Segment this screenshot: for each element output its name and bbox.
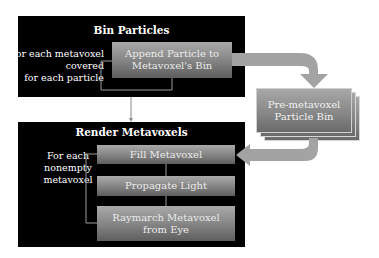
- render-loop-bracket: [86, 154, 97, 223]
- pre-metavoxel-particle-bin: Pre-metavoxel Particle Bin: [256, 88, 352, 133]
- bin-loop-bracket: [101, 61, 172, 90]
- bin-to-fill-arrow: [236, 138, 318, 166]
- append-to-bin-arrow: [232, 53, 328, 88]
